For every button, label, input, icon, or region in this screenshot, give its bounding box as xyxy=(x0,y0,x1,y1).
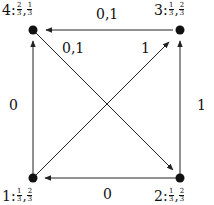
edge-4-to-2-label: 0,1 xyxy=(62,41,84,55)
edge-4-to-2 xyxy=(36,33,173,170)
node-1-frac2: 23 xyxy=(27,188,32,203)
edge-2-to-1-label: 0 xyxy=(103,187,112,201)
node-3-id: 3: xyxy=(154,3,168,17)
node-1-label: 1: 13, 23 xyxy=(2,188,33,203)
node-3-dot xyxy=(176,26,185,35)
node-4-id: 4: xyxy=(2,3,16,17)
node-3-label: 3: 13, 23 xyxy=(154,2,185,17)
node-2-dot xyxy=(176,174,185,183)
edge-3-to-4-label: 0,1 xyxy=(96,7,118,21)
node-1-frac1: 13 xyxy=(17,188,22,203)
edge-1-to-4-label: 0 xyxy=(9,98,18,112)
node-3-frac2: 23 xyxy=(179,2,184,17)
node-2-id: 2: xyxy=(154,189,168,203)
edge-1-to-3-label: 1 xyxy=(141,41,150,55)
node-2-frac1: 13 xyxy=(169,188,174,203)
node-1-id: 1: xyxy=(2,189,16,203)
edge-2-to-3-label: 1 xyxy=(197,98,206,112)
node-4-frac1: 23 xyxy=(17,2,22,17)
node-4-label: 4: 23, 13 xyxy=(2,2,33,17)
state-transition-diagram xyxy=(0,0,214,205)
node-4-frac2: 13 xyxy=(27,2,32,17)
node-3-frac1: 13 xyxy=(169,2,174,17)
node-1-dot xyxy=(29,174,38,183)
node-4-dot xyxy=(29,26,38,35)
node-2-label: 2: 13, 23 xyxy=(154,188,185,203)
edge-1-to-3 xyxy=(36,42,169,175)
node-2-frac2: 23 xyxy=(179,188,184,203)
